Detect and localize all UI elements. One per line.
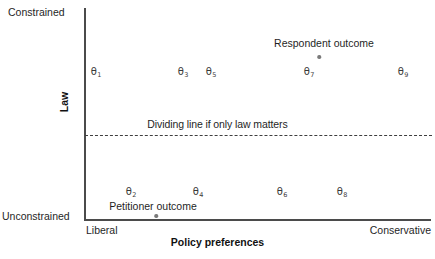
y-axis-top-label: Constrained	[8, 6, 65, 18]
x-axis-right-label: Conservative	[370, 224, 431, 236]
theta-4-subscript: 4	[199, 191, 203, 199]
theta-9-marker: θ9	[398, 66, 408, 77]
respondent-outcome-point	[317, 55, 321, 59]
theta-5-marker: θ5	[206, 66, 216, 77]
theta-3-marker: θ3	[178, 66, 188, 77]
theta-9-subscript: 9	[404, 71, 408, 79]
x-axis-line	[84, 219, 431, 221]
theta-2-subscript: 2	[132, 191, 136, 199]
theta-7-subscript: 7	[310, 71, 314, 79]
theta-6-marker: θ6	[277, 186, 287, 197]
y-axis-bottom-label: Unconstrained	[2, 210, 70, 222]
petitioner-outcome-label: Petitioner outcome	[109, 200, 197, 212]
theta-3-subscript: 3	[184, 71, 188, 79]
dividing-line	[85, 135, 432, 136]
theta-8-subscript: 8	[343, 191, 347, 199]
theta-8-marker: θ8	[337, 186, 347, 197]
theta-1-subscript: 1	[97, 71, 101, 79]
x-axis-left-label: Liberal	[86, 224, 118, 236]
theta-2-marker: θ2	[126, 186, 136, 197]
theta-7-marker: θ7	[304, 66, 314, 77]
theta-6-subscript: 6	[283, 191, 287, 199]
theta-4-marker: θ4	[193, 186, 203, 197]
respondent-outcome-label: Respondent outcome	[274, 37, 374, 49]
theta-1-marker: θ1	[91, 66, 101, 77]
y-axis-line	[84, 8, 86, 221]
y-axis-title: Law	[58, 92, 70, 112]
petitioner-outcome-point	[154, 214, 158, 218]
theta-5-subscript: 5	[212, 71, 216, 79]
chart-figure: Constrained Unconstrained Liberal Conser…	[0, 0, 435, 259]
x-axis-title: Policy preferences	[0, 236, 435, 248]
dividing-line-label: Dividing line if only law matters	[0, 118, 435, 130]
